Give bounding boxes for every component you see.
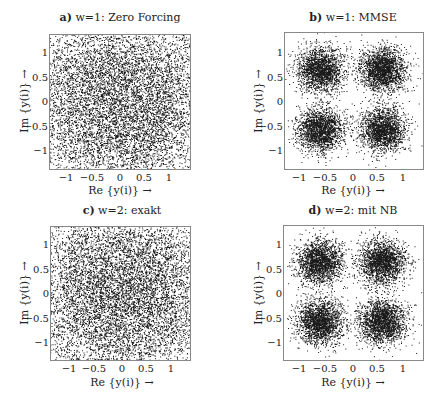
y-tick-label: 0.5 <box>266 264 282 275</box>
y-tick-label: −0.5 <box>259 121 283 132</box>
x-tick-label: 1 <box>400 172 406 183</box>
scatter-points <box>49 34 191 170</box>
y-tick-label: 1 <box>276 239 282 250</box>
x-tick-label: 0 <box>119 363 125 374</box>
scatter-plot-b <box>284 32 424 170</box>
chart-title-c: c) w=2: exakt <box>83 204 162 217</box>
y-tick-label: 1 <box>42 47 48 58</box>
x-axis-label-a: Re {y(i)} → <box>88 184 151 197</box>
y-tick-label: −0.5 <box>24 121 48 132</box>
chart-title-b: b) w=1: MMSE <box>309 11 396 24</box>
x-tick-label: 1 <box>400 363 406 374</box>
y-tick-label: −1 <box>34 337 49 348</box>
y-tick-label: 0 <box>277 96 283 107</box>
y-tick-label: 1 <box>277 47 283 58</box>
x-tick-label: 1 <box>168 363 174 374</box>
x-axis-label-b: Re {y(i)} → <box>321 184 384 197</box>
x-tick-label: −1 <box>292 363 307 374</box>
y-tick-label: 0.5 <box>33 264 49 275</box>
chart-title-d: d) w=2: mit NB <box>309 204 398 217</box>
scatter-plot-d <box>283 225 424 361</box>
x-tick-label: 0 <box>350 363 356 374</box>
x-tick-label: 0 <box>350 172 356 183</box>
x-tick-label: −0.5 <box>313 363 337 374</box>
y-tick-label: 0 <box>276 288 282 299</box>
y-tick-label: −1 <box>268 145 283 156</box>
scatter-plot-c <box>50 226 191 361</box>
y-tick-label: −0.5 <box>25 313 49 324</box>
x-tick-label: −0.5 <box>313 172 337 183</box>
y-tick-label: 0.5 <box>267 72 283 83</box>
y-tick-label: −1 <box>267 337 282 348</box>
x-axis-label-d: Re {y(i)} → <box>321 376 384 389</box>
x-tick-label: 0.5 <box>136 172 152 183</box>
y-tick-label: 0 <box>42 96 48 107</box>
scatter-points <box>283 227 424 361</box>
x-tick-label: 0.5 <box>369 172 385 183</box>
x-tick-label: −0.5 <box>82 363 106 374</box>
y-tick-label: 0 <box>43 288 49 299</box>
scatter-points <box>285 32 423 168</box>
chart-title-a: a) w=1: Zero Forcing <box>60 11 181 24</box>
x-tick-label: −1 <box>292 172 307 183</box>
y-tick-label: 1 <box>43 239 49 250</box>
y-tick-label: −0.5 <box>258 313 282 324</box>
x-tick-label: −0.5 <box>80 172 104 183</box>
x-tick-label: 1 <box>166 172 172 183</box>
y-tick-label: −1 <box>33 145 48 156</box>
scatter-plot-a <box>49 34 191 170</box>
y-tick-label: 0.5 <box>32 72 48 83</box>
scatter-points <box>50 226 191 361</box>
x-axis-label-c: Re {y(i)} → <box>90 376 153 389</box>
x-tick-label: 0.5 <box>369 363 385 374</box>
x-tick-label: −1 <box>62 363 77 374</box>
x-tick-label: 0 <box>117 172 123 183</box>
x-tick-label: 0.5 <box>138 363 154 374</box>
x-tick-label: −1 <box>59 172 74 183</box>
